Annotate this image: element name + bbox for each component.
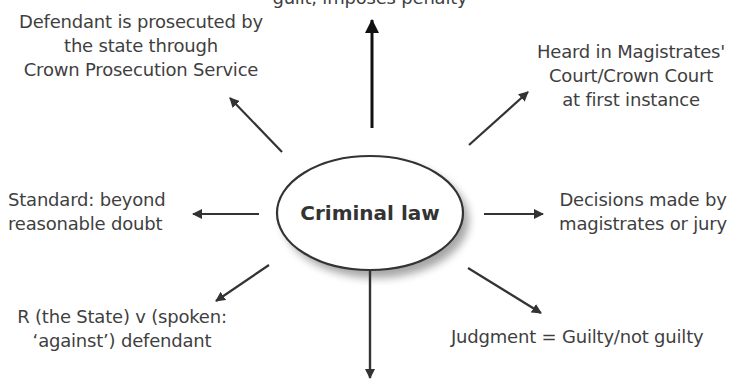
node-top-right-line-1: Heard in Magistrates' <box>524 40 738 64</box>
node-top-left: Defendant is prosecuted by the state thr… <box>4 10 278 82</box>
arrow-bottom-left <box>216 265 269 301</box>
node-top-right: Heard in Magistrates' Court/Crown Court … <box>524 40 738 112</box>
arrow-bottom-right <box>468 268 541 313</box>
node-bottom-right-line-1: Judgment = Guilty/not guilty <box>451 325 740 349</box>
node-right-line-2: magistrates or jury <box>548 212 738 236</box>
node-bottom-right: Judgment = Guilty/not guilty <box>451 325 740 349</box>
criminal-law-spider-diagram: Criminal law guilt, imposes penalty Defe… <box>0 0 740 379</box>
node-left-line-1: Standard: beyond <box>8 188 188 212</box>
arrow-top-left <box>230 98 282 152</box>
node-top: guilt, imposes penalty <box>270 0 470 10</box>
node-top-left-line-2: the state through <box>4 34 278 58</box>
node-top-left-line-1: Defendant is prosecuted by <box>4 10 278 34</box>
node-top-line-1: guilt, imposes penalty <box>270 0 470 10</box>
node-bottom-left: R (the State) v (spoken: ‘against’) defe… <box>4 305 240 353</box>
hub-label: Criminal law <box>277 200 463 226</box>
node-right: Decisions made by magistrates or jury <box>548 188 738 236</box>
arrow-top-right <box>469 92 528 145</box>
node-bottom-left-line-2: ‘against’) defendant <box>4 329 240 353</box>
node-top-right-line-2: Court/Crown Court <box>524 64 738 88</box>
node-right-line-1: Decisions made by <box>548 188 738 212</box>
node-left: Standard: beyond reasonable doubt <box>8 188 188 236</box>
node-left-line-2: reasonable doubt <box>8 212 188 236</box>
node-top-left-line-3: Crown Prosecution Service <box>4 58 278 82</box>
node-bottom-left-line-1: R (the State) v (spoken: <box>4 305 240 329</box>
node-top-right-line-3: at first instance <box>524 88 738 112</box>
